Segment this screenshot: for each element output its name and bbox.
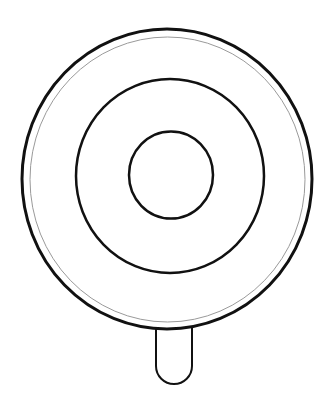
candy-outer-ring	[22, 29, 312, 329]
lollipop-stick	[156, 324, 192, 384]
lollipop-drawing	[0, 0, 330, 406]
lollipop-illustration	[0, 0, 330, 406]
